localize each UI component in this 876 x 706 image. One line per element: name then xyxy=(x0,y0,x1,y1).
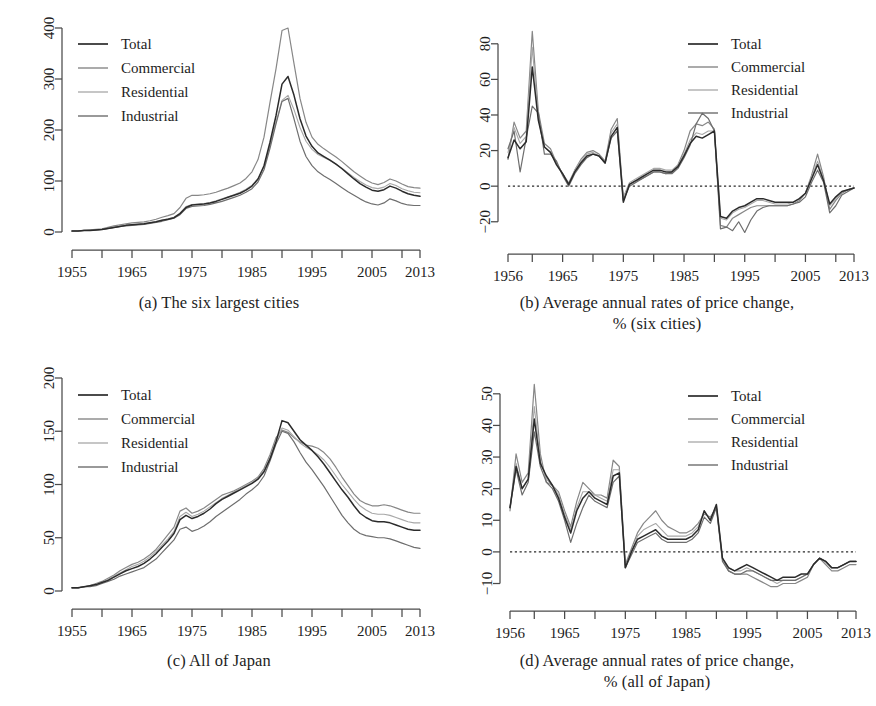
series-line-total xyxy=(508,67,854,218)
x-tick-label-5: 2005 xyxy=(357,623,387,639)
y-tick-label-4: 30 xyxy=(479,450,495,465)
y-tick-label-1: 100 xyxy=(41,170,57,193)
y-tick-label-5: 40 xyxy=(479,418,495,433)
figure-panel-grid: 0100200300400195519651975198519952005201… xyxy=(0,0,876,706)
legend-label-residential: Residential xyxy=(731,82,799,98)
panel-b-caption-line2: % (six cities) xyxy=(438,313,876,334)
x-tick-label-2: 1975 xyxy=(610,625,640,641)
legend-label-commercial: Commercial xyxy=(731,411,805,427)
series-line-residential xyxy=(72,428,420,588)
x-tick-label-1: 1965 xyxy=(550,625,580,641)
y-tick-label-3: 20 xyxy=(479,481,495,496)
y-tick-label-2: 20 xyxy=(477,143,493,158)
series-line-industrial xyxy=(72,431,420,588)
x-tick-label-2: 1975 xyxy=(177,264,207,280)
panel-d-caption: (d) Average annual rates of price change… xyxy=(438,650,876,692)
panel-b-rates-six-cities: −200204060801956196519751985199520052013… xyxy=(438,0,876,348)
legend-label-residential: Residential xyxy=(121,435,189,451)
y-tick-label-5: 80 xyxy=(477,36,493,51)
panel-a-six-largest-cities: 0100200300400195519651975198519952005201… xyxy=(0,0,438,348)
panel-c-caption: (c) All of Japan xyxy=(0,650,438,671)
x-tick-label-5: 2005 xyxy=(790,268,820,284)
panel-d-caption-line1: (d) Average annual rates of price change… xyxy=(520,651,795,670)
y-tick-label-3: 300 xyxy=(41,68,57,91)
legend-label-residential: Residential xyxy=(121,84,189,100)
x-tick-label-3: 1985 xyxy=(671,625,701,641)
x-tick-label-3: 1985 xyxy=(237,264,267,280)
x-tick-label-3: 1985 xyxy=(237,623,267,639)
y-tick-label-4: 60 xyxy=(477,72,493,87)
series-line-commercial xyxy=(72,430,420,588)
panel-b-caption-line1: (b) Average annual rates of price change… xyxy=(520,293,795,312)
x-tick-label-1: 1965 xyxy=(117,623,147,639)
x-tick-label-6: 2013 xyxy=(405,623,435,639)
legend-label-commercial: Commercial xyxy=(731,59,805,75)
y-tick-label-4: 200 xyxy=(41,367,57,390)
legend-label-commercial: Commercial xyxy=(121,60,195,76)
y-tick-label-4: 400 xyxy=(41,17,57,40)
y-tick-label-3: 150 xyxy=(41,420,57,443)
panel-a-caption-line1: (a) The six largest cities xyxy=(139,293,300,312)
x-tick-label-0: 1956 xyxy=(493,268,524,284)
y-tick-label-2: 200 xyxy=(41,119,57,142)
x-tick-label-2: 1975 xyxy=(608,268,638,284)
y-tick-label-0: 0 xyxy=(41,587,57,595)
legend-label-total: Total xyxy=(121,36,152,52)
y-tick-label-1: 50 xyxy=(41,530,57,545)
x-tick-label-5: 2005 xyxy=(792,625,822,641)
y-tick-label-1: 0 xyxy=(477,182,493,190)
y-tick-label-3: 40 xyxy=(477,107,493,122)
legend-label-residential: Residential xyxy=(731,434,799,450)
legend-label-commercial: Commercial xyxy=(121,411,195,427)
series-line-total xyxy=(510,419,856,580)
panel-d-plot: −100102030405019561965197519851995200520… xyxy=(438,348,876,648)
x-tick-label-1: 1965 xyxy=(548,268,578,284)
x-tick-label-6: 2013 xyxy=(405,264,435,280)
panel-d-rates-all-japan: −100102030405019561965197519851995200520… xyxy=(438,348,876,706)
series-line-residential xyxy=(510,406,856,583)
legend-label-total: Total xyxy=(731,388,762,404)
x-tick-label-4: 1995 xyxy=(732,625,762,641)
x-tick-label-4: 1995 xyxy=(297,623,327,639)
x-tick-label-0: 1955 xyxy=(57,264,87,280)
x-tick-label-0: 1956 xyxy=(495,625,526,641)
x-tick-label-4: 1995 xyxy=(730,268,760,284)
x-tick-label-6: 2013 xyxy=(841,625,871,641)
panel-d-caption-line2: % (all of Japan) xyxy=(438,671,876,692)
series-line-commercial xyxy=(72,28,420,231)
x-tick-label-6: 2013 xyxy=(839,268,869,284)
legend-label-industrial: Industrial xyxy=(121,459,179,475)
legend-label-industrial: Industrial xyxy=(731,457,789,473)
panel-c-caption-line1: (c) All of Japan xyxy=(167,651,271,670)
x-tick-label-2: 1975 xyxy=(177,623,207,639)
panel-b-caption: (b) Average annual rates of price change… xyxy=(438,292,876,334)
panel-a-plot: 0100200300400195519651975198519952005201… xyxy=(0,0,438,290)
legend-label-industrial: Industrial xyxy=(731,105,789,121)
legend-label-total: Total xyxy=(731,36,762,52)
panel-a-caption: (a) The six largest cities xyxy=(0,292,438,313)
y-tick-label-6: 50 xyxy=(479,386,495,401)
y-tick-label-0: 0 xyxy=(41,228,57,236)
x-tick-label-0: 1955 xyxy=(57,623,87,639)
legend-label-total: Total xyxy=(121,387,152,403)
x-tick-label-3: 1985 xyxy=(669,268,699,284)
x-tick-label-5: 2005 xyxy=(357,264,387,280)
y-tick-label-1: 0 xyxy=(479,548,495,556)
panel-c-all-of-japan: 0501001502001955196519751985199520052013… xyxy=(0,348,438,706)
x-tick-label-4: 1995 xyxy=(297,264,327,280)
legend-label-industrial: Industrial xyxy=(121,108,179,124)
x-tick-label-1: 1965 xyxy=(117,264,147,280)
panel-c-plot: 0501001502001955196519751985199520052013… xyxy=(0,348,438,648)
y-tick-label-2: 10 xyxy=(479,513,495,528)
y-tick-label-0: −20 xyxy=(477,210,493,233)
y-tick-label-2: 100 xyxy=(41,473,57,496)
y-tick-label-0: −10 xyxy=(479,572,495,595)
panel-b-plot: −200204060801956196519751985199520052013… xyxy=(438,0,876,290)
